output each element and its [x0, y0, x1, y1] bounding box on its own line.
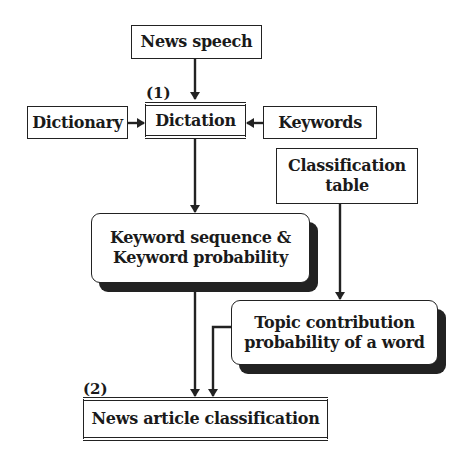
flowchart-canvas: News speech Dictionary (1) Dictation Key…: [0, 0, 473, 473]
node-topic-contribution: Topic contribution probability of a word: [231, 300, 438, 365]
node-news-speech-label: News speech: [141, 32, 253, 52]
node-topic-contribution-line2: probability of a word: [244, 333, 424, 353]
node-keyword-sequence: Keyword sequence & Keyword probability: [91, 213, 310, 283]
node-dictionary: Dictionary: [27, 106, 128, 139]
marker-2-label: (2): [83, 380, 108, 398]
node-keywords: Keywords: [263, 106, 377, 139]
node-dictionary-label: Dictionary: [32, 113, 123, 133]
node-news-article-classification-label: News article classification: [91, 409, 319, 429]
node-classification-table-line2: table: [325, 176, 369, 196]
node-classification-table: Classification table: [276, 148, 418, 204]
node-keyword-sequence-line2: Keyword probability: [113, 248, 288, 268]
node-topic-contribution-line1: Topic contribution: [254, 313, 414, 333]
node-classification-table-line1: Classification: [288, 156, 406, 176]
node-news-article-classification: News article classification: [83, 397, 328, 441]
node-news-speech: News speech: [131, 25, 262, 59]
node-dictation-label: Dictation: [155, 111, 236, 131]
marker-1-label: (1): [146, 84, 171, 102]
node-keyword-sequence-line1: Keyword sequence &: [110, 228, 291, 248]
node-keywords-label: Keywords: [278, 113, 362, 133]
arrow-topic-to-classification: [213, 327, 231, 396]
node-dictation: Dictation: [145, 102, 246, 139]
